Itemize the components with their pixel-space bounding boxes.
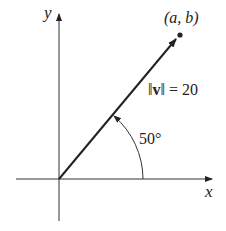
point-label: (a, b) [164,9,199,27]
vector-symbol: v [153,81,161,98]
point-a-b [177,32,182,37]
y-axis-label: y [44,3,52,23]
magnitude-label: ‖v‖ = 20 [148,81,198,99]
magnitude-suffix: ‖ = 20 [161,81,199,98]
vector-v [59,39,176,179]
x-axis-label: x [205,182,213,202]
vector-diagram: y x (a, b) ‖v‖ = 20 50° [0,0,226,231]
diagram-graphics [0,0,226,231]
angle-label: 50° [139,130,161,148]
